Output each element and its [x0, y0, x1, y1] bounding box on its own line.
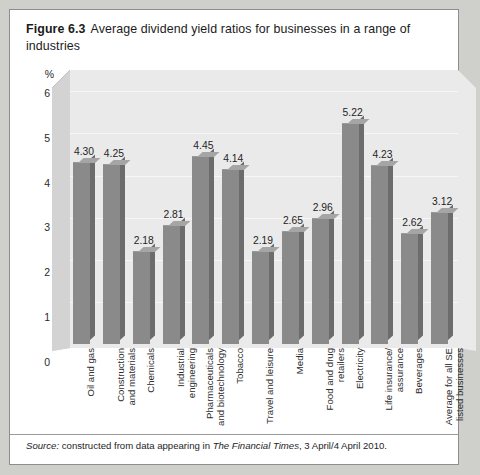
bar-value-label: 3.12 — [426, 196, 458, 207]
source-publication: The Financial Times — [213, 440, 299, 451]
source-label: Source: — [26, 440, 59, 451]
bar-side-face — [150, 244, 155, 340]
bar-5[interactable]: 4.45 — [192, 157, 214, 344]
bar-front-face — [163, 225, 180, 344]
bar-body — [192, 157, 209, 344]
bar-body — [431, 213, 448, 344]
bar-value-label: 2.65 — [277, 215, 309, 226]
bar-front-face — [133, 251, 150, 344]
bar-side-face — [120, 156, 125, 340]
bar-side-face — [388, 157, 393, 340]
bar-value-label: 4.45 — [187, 140, 219, 151]
bar-body — [371, 166, 388, 344]
bar-body — [103, 165, 120, 344]
bar-front-face — [192, 156, 209, 344]
bar-1[interactable]: 4.30 — [73, 163, 95, 344]
bar-6[interactable]: 4.14 — [222, 170, 244, 344]
bar-body — [401, 234, 418, 344]
bar-top-face — [436, 208, 459, 213]
bar-side-face — [448, 204, 453, 340]
bar-body — [222, 170, 239, 344]
bar-side-face — [299, 224, 304, 340]
bar-value-label: 2.81 — [158, 209, 190, 220]
bar-front-face — [371, 165, 388, 344]
x-axis-label-1: Oil and gas — [86, 348, 97, 444]
bar-2[interactable]: 4.25 — [103, 165, 125, 344]
plot-area: 4.304.252.182.814.454.142.192.652.965.22… — [70, 66, 458, 344]
bar-side-face — [239, 161, 244, 340]
x-axis-label-5: Pharmaceuticals and biotechnology — [205, 348, 226, 444]
bar-13[interactable]: 3.12 — [431, 213, 453, 344]
bar-value-label: 4.30 — [68, 146, 100, 157]
x-axis-labels: Oil and gasConstruction and materialsChe… — [70, 350, 458, 446]
bar-11[interactable]: 4.23 — [371, 166, 393, 344]
source-divider — [10, 434, 458, 435]
x-axis-label-13: Average for all SE listed businesses — [444, 348, 465, 444]
x-axis-label-7: Travel and leisure — [265, 348, 276, 444]
bar-body — [73, 163, 90, 344]
bar-top-face — [168, 221, 191, 226]
y-axis-tick-2: 2 — [28, 267, 50, 277]
bar-value-label: 5.22 — [337, 107, 369, 118]
x-axis-label-9: Food and drug retailers — [325, 348, 346, 444]
bar-top-face — [376, 161, 399, 166]
figure-title: Figure 6.3Average dividend yield ratios … — [26, 21, 446, 54]
bar-body — [252, 252, 269, 344]
x-axis-label-8: Media — [295, 348, 306, 444]
x-axis-label-11: Life insurance/ assurance — [384, 348, 405, 444]
bar-value-label: 2.62 — [396, 217, 428, 228]
y-axis-unit-label: % — [32, 68, 54, 80]
bar-value-label: 2.96 — [307, 202, 339, 213]
bar-side-face — [90, 154, 95, 340]
y-axis-tick-5: 5 — [28, 133, 50, 143]
y-axis-tick-6: 6 — [28, 88, 50, 98]
bar-top-face — [108, 160, 131, 165]
figure-number: Figure 6.3 — [26, 22, 86, 36]
bar-series: 4.304.252.182.814.454.142.192.652.965.22… — [70, 66, 458, 344]
bar-top-face — [406, 229, 429, 234]
bar-front-face — [252, 251, 269, 344]
bar-front-face — [222, 169, 239, 344]
figure-card: Figure 6.3Average dividend yield ratios … — [9, 9, 459, 465]
bar-side-face — [359, 116, 364, 340]
bar-value-label: 2.19 — [247, 235, 279, 246]
bar-body — [163, 226, 180, 344]
bar-value-label: 2.18 — [128, 235, 160, 246]
bar-8[interactable]: 2.65 — [282, 232, 304, 344]
bar-4[interactable]: 2.81 — [163, 226, 185, 344]
bar-9[interactable]: 2.96 — [312, 219, 334, 344]
bar-top-face — [257, 247, 280, 252]
bar-side-face — [269, 243, 274, 340]
bar-7[interactable]: 2.19 — [252, 252, 274, 344]
bar-value-label: 4.23 — [366, 149, 398, 160]
bar-front-face — [73, 162, 90, 344]
x-axis-label-10: Electricity — [355, 348, 366, 444]
chart: % 0123456 4.304.252.182.814.454.142.192.… — [28, 62, 460, 445]
y-axis-tick-0: 0 — [28, 357, 50, 367]
source-text-before: constructed from data appearing in — [59, 440, 213, 451]
bar-body — [312, 219, 329, 344]
bar-top-face — [347, 119, 370, 124]
bar-top-face — [227, 165, 250, 170]
y-axis-tick-3: 3 — [28, 222, 50, 232]
bar-front-face — [401, 233, 418, 344]
bar-side-face — [180, 217, 185, 340]
bar-value-label: 4.25 — [98, 148, 130, 159]
bar-top-face — [317, 214, 340, 219]
bar-12[interactable]: 2.62 — [401, 234, 423, 344]
bar-body — [133, 252, 150, 344]
x-axis-label-4: Industrial engineering — [176, 348, 197, 444]
bar-side-face — [329, 211, 334, 340]
bar-10[interactable]: 5.22 — [342, 124, 364, 344]
y-axis-tick-1: 1 — [28, 312, 50, 322]
source-note: Source: constructed from data appearing … — [26, 440, 387, 451]
bar-top-face — [287, 227, 310, 232]
bar-side-face — [209, 148, 214, 340]
bar-value-label: 4.14 — [217, 153, 249, 164]
x-axis-label-2: Construction and materials — [116, 348, 137, 444]
bar-side-face — [418, 225, 423, 340]
bar-3[interactable]: 2.18 — [133, 252, 155, 344]
y-axis-tick-4: 4 — [28, 178, 50, 188]
bar-front-face — [282, 231, 299, 344]
x-axis-label-3: Chemicals — [146, 348, 157, 444]
